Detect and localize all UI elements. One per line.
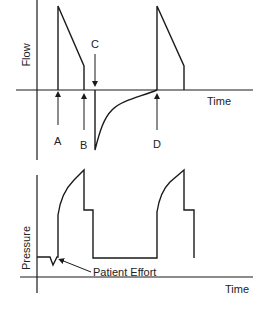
pressure-x-label: Time bbox=[225, 283, 249, 295]
flow-y-label: Flow bbox=[20, 43, 32, 66]
pressure-y-label: Pressure bbox=[20, 226, 32, 270]
flow-panel: Flow Time A B C D bbox=[16, 0, 253, 160]
flow-expiratory-curve bbox=[95, 90, 157, 150]
marker-a-label: A bbox=[54, 135, 62, 147]
pressure-waveform bbox=[37, 170, 194, 265]
flow-waveform-breath-2 bbox=[157, 6, 184, 90]
flow-waveform-breath-1 bbox=[58, 6, 84, 90]
patient-effort-label: Patient Effort bbox=[93, 266, 156, 278]
ventilator-waveform-diagram: Flow Time A B C D Pressure Time Patient … bbox=[0, 0, 270, 321]
marker-d-label: D bbox=[153, 138, 161, 150]
marker-b-label: B bbox=[80, 139, 87, 151]
pressure-panel: Pressure Time Patient Effort bbox=[20, 170, 253, 295]
flow-x-label: Time bbox=[207, 95, 231, 107]
marker-c-label: C bbox=[91, 38, 99, 50]
patient-effort-pointer bbox=[61, 260, 91, 272]
